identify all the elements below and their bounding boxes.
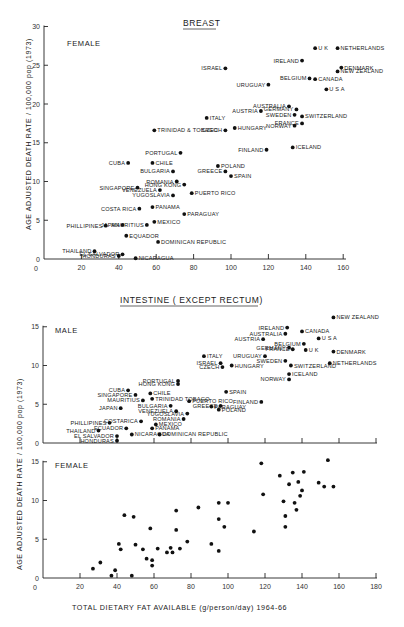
x-tick-label: 60 — [152, 264, 160, 271]
data-point — [132, 515, 136, 519]
data-point — [267, 83, 271, 87]
data-point — [229, 174, 233, 178]
point-label: FINLAND — [238, 147, 263, 153]
x-tick-label: 160 — [333, 583, 345, 590]
point-label: DOMINICAN REPUBLIC — [163, 431, 228, 437]
data-point — [104, 224, 108, 228]
y-tick-label: 0 — [35, 575, 39, 582]
point-label: PANAMA — [155, 204, 179, 210]
data-point — [178, 547, 182, 551]
data-point — [226, 501, 230, 505]
point-label: VENEZUELA — [138, 408, 173, 414]
data-point — [205, 116, 209, 120]
point-label: IRELAND — [273, 58, 299, 64]
data-point — [216, 164, 220, 168]
data-point — [151, 161, 155, 165]
data-point — [313, 77, 317, 81]
data-point — [332, 485, 336, 489]
data-point — [302, 470, 306, 474]
data-point — [169, 404, 173, 408]
point-label: ITALY — [207, 353, 223, 359]
data-point — [126, 161, 130, 165]
data-point — [156, 547, 160, 551]
data-point — [123, 513, 127, 517]
data-point — [179, 151, 183, 155]
data-point — [223, 66, 227, 70]
point-label: ISRAEL — [201, 65, 222, 71]
data-point — [158, 188, 162, 192]
data-point — [259, 109, 263, 113]
point-label: NEW ZEALAND — [336, 314, 379, 320]
data-point — [230, 364, 234, 368]
data-point — [317, 336, 321, 340]
point-label: NORWAY — [260, 376, 286, 382]
data-point — [98, 561, 102, 565]
data-point — [202, 354, 206, 358]
data-point — [124, 234, 128, 238]
data-point — [141, 547, 145, 551]
data-point — [222, 525, 226, 529]
data-point — [165, 551, 169, 555]
data-point — [174, 509, 178, 513]
point-label: NEW ZEALAND — [341, 68, 384, 74]
point-label: CUBA — [109, 160, 125, 166]
data-point — [217, 408, 221, 412]
data-point — [223, 128, 227, 132]
point-label: HUNGARY — [235, 363, 264, 369]
data-point — [308, 77, 312, 81]
point-label: SWEDEN — [266, 112, 292, 118]
point-label: DENMARK — [336, 349, 365, 355]
data-point — [293, 113, 297, 117]
breast-scatter-plot: 051015202530204060801001201401600U KNETH… — [32, 23, 384, 272]
data-point — [121, 252, 125, 256]
x-tick-label: 140 — [300, 264, 312, 271]
data-point — [285, 326, 289, 330]
data-point — [151, 205, 155, 209]
y-tick-label: 5 — [35, 401, 39, 408]
data-point — [145, 557, 149, 561]
data-point — [141, 398, 145, 402]
point-label: SWITZERLAND — [305, 113, 347, 119]
origin-label: 0 — [33, 584, 37, 591]
point-label: COSTA RICA — [101, 206, 137, 212]
data-point — [185, 412, 189, 416]
intestine-title: INTESTINE ( EXCEPT RECTUM) — [120, 295, 263, 305]
point-label: PHILLIPINES — [67, 223, 103, 229]
point-label: U K — [318, 45, 328, 51]
data-point — [171, 170, 175, 174]
data-point — [134, 256, 138, 260]
point-label: HONDURAS — [80, 438, 114, 444]
data-point — [119, 547, 123, 551]
point-label: SWITZERLAND — [294, 363, 336, 369]
x-tick-label: 20 — [78, 264, 86, 271]
data-point — [117, 254, 121, 258]
point-label: ITALY — [210, 115, 226, 121]
data-point — [197, 506, 201, 510]
data-point — [313, 46, 317, 50]
point-label: MEXICO — [157, 219, 181, 225]
data-point — [278, 474, 282, 478]
breast-sex-label: FEMALE — [67, 39, 101, 48]
point-label: PANAMA — [155, 425, 179, 431]
data-point — [233, 126, 237, 130]
x-tick-label: 140 — [296, 583, 308, 590]
point-label: FRANCE — [275, 120, 299, 126]
figure: BREAST FEMALE INTESTINE ( EXCEPT RECTUM)… — [0, 0, 404, 627]
data-point — [300, 59, 304, 63]
y-tick-label: 10 — [31, 497, 39, 504]
point-label: HONDURAS — [82, 253, 116, 259]
point-label: TRINIDAD & TOBAGO — [157, 127, 218, 133]
x-tick-label: 60 — [150, 583, 158, 590]
y-tick-label: 25 — [32, 62, 40, 69]
data-point — [182, 417, 186, 421]
data-point — [283, 514, 287, 518]
point-label: U S A — [322, 335, 337, 341]
point-label: PORTUGAL — [145, 150, 177, 156]
data-point — [137, 207, 141, 211]
point-label: HUNGARY — [238, 125, 267, 131]
intestine-female-label: FEMALE — [55, 461, 89, 470]
point-label: IRELAND — [259, 325, 285, 331]
data-point — [190, 191, 194, 195]
data-point — [287, 482, 291, 486]
data-point — [283, 525, 287, 529]
